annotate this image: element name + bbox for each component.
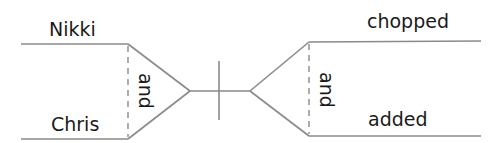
predicate-line-top	[309, 41, 481, 42]
compound-predicate: chopped added and	[250, 10, 481, 136]
compound-subject: Nikki Chris and	[21, 18, 190, 139]
subject-word-1: Nikki	[49, 18, 96, 40]
predicate-conjunction: and	[316, 72, 338, 108]
predicate-fork-lower	[250, 91, 309, 136]
predicate-fork-upper	[250, 42, 309, 91]
predicate-word-2: added	[368, 108, 428, 130]
subject-conjunction: and	[135, 73, 157, 109]
subject-word-2: Chris	[51, 113, 99, 135]
sentence-diagram: Nikki Chris and chopped added and	[0, 0, 494, 143]
predicate-word-1: chopped	[367, 10, 449, 32]
